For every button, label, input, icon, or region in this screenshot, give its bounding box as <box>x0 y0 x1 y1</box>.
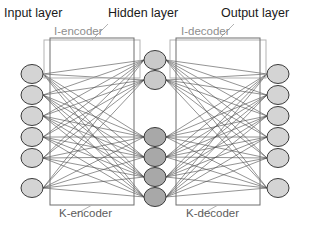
network-canvas <box>0 0 310 230</box>
output-node <box>267 107 289 126</box>
hidden-node <box>144 148 166 167</box>
edges-hidden-to-output <box>166 60 267 197</box>
k-encoder-label: K-encoder <box>59 208 112 220</box>
output-node <box>267 128 289 147</box>
network-nodes <box>21 51 289 207</box>
hidden-node <box>144 188 166 207</box>
input-node <box>21 149 43 168</box>
hidden-node <box>144 128 166 147</box>
i-encoder-frame <box>44 40 140 78</box>
output-node <box>267 149 289 168</box>
i-decoder-label: I-decoder <box>181 26 230 38</box>
hidden-layer-title: Hidden layer <box>108 7 178 20</box>
input-node <box>21 86 43 105</box>
edges-input-to-hidden <box>43 60 144 197</box>
neural-network-diagram: Input layer Hidden layer Output layer I-… <box>0 0 310 230</box>
hidden-node <box>144 71 166 90</box>
output-layer-title: Output layer <box>221 7 289 20</box>
i-decoder-frame <box>170 40 266 78</box>
output-node <box>267 179 289 198</box>
input-layer-title: Input layer <box>4 7 62 20</box>
hidden-node <box>144 51 166 70</box>
k-decoder-label: K-decoder <box>186 208 239 220</box>
output-node <box>267 86 289 105</box>
input-node <box>21 107 43 126</box>
input-node <box>21 179 43 198</box>
output-node <box>267 65 289 84</box>
input-node <box>21 128 43 147</box>
hidden-node <box>144 168 166 187</box>
input-node <box>21 65 43 84</box>
i-encoder-label: I-encoder <box>54 26 103 38</box>
